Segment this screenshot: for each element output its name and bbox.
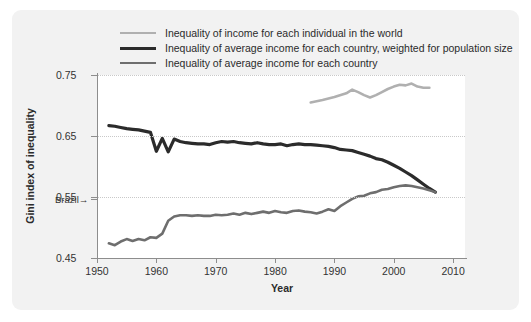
y-tick-0.65 [91,136,97,137]
plot-area [97,75,465,258]
y-axis-line [97,73,98,260]
series-line-0 [311,84,430,103]
gridline-0.75 [97,75,465,76]
x-tick-2000 [394,258,395,263]
y-tick-label-0.75: 0.75 [56,69,76,81]
x-tick-1990 [334,258,335,263]
brazil-tick [91,199,97,200]
gridline-0.65 [97,136,465,137]
y-tick-0.55 [91,197,97,198]
y-tick-label-0.65: 0.65 [56,130,76,142]
x-tick-1960 [156,258,157,263]
x-tick-label-1960: 1960 [145,265,168,277]
y-tick-label-0.55: 0.55 [56,191,76,203]
gridline-0.55 [97,197,465,198]
y-tick-0.75 [91,75,97,76]
x-tick-label-2000: 2000 [382,265,405,277]
x-tick-label-1990: 1990 [323,265,346,277]
y-tick-label-0.45: 0.45 [56,252,76,264]
x-tick-label-1950: 1950 [85,265,108,277]
chart-figure: Inequality of income for each individual… [12,10,519,310]
x-tick-1950 [97,258,98,263]
x-tick-label-1970: 1970 [204,265,227,277]
plot-container: Gini index of inequality Year Brazil→ 0.… [12,10,519,310]
series-lines [97,75,465,258]
series-line-2 [109,185,435,245]
x-axis-title: Year [271,282,293,294]
x-tick-1970 [216,258,217,263]
x-tick-label-1980: 1980 [263,265,286,277]
x-tick-1980 [275,258,276,263]
x-axis-line [97,258,467,259]
y-axis-title: Gini index of inequality [24,108,36,224]
x-tick-label-2010: 2010 [441,265,464,277]
x-tick-2010 [453,258,454,263]
